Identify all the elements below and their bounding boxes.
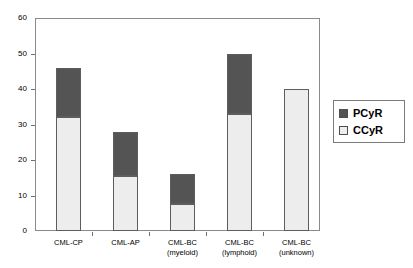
legend-label-pcyr: PCyR [353, 108, 382, 119]
y-tick-label-40: 40 [18, 85, 27, 93]
x-cat-label-line1: CML-BC [168, 238, 197, 247]
x-cat-label-cml-bc-unknown: CML-BC (unknown) [263, 238, 330, 258]
stacked-bar-chart: 60 50 40 30 20 10 0 [0, 0, 413, 268]
x-cat-label-line1: CML-BC [225, 238, 254, 247]
bar-segment-ccyr [227, 114, 252, 231]
bar-group-cml-bc-unknown [284, 89, 309, 231]
legend-item-ccyr: CCyR [339, 122, 399, 139]
chart-legend: PCyR CCyR [333, 100, 405, 143]
bar-segment-pcyr [56, 68, 81, 118]
y-axis: 60 50 40 30 20 10 0 [0, 0, 35, 268]
legend-swatch-icon [339, 109, 348, 118]
bar-segment-ccyr [56, 117, 81, 231]
x-tick-mark-4 [263, 232, 264, 236]
y-tick-label-20: 20 [18, 156, 27, 164]
legend-item-pcyr: PCyR [339, 105, 399, 122]
y-tick-label-10: 10 [18, 192, 27, 200]
bars-layer [35, 18, 320, 231]
x-cat-label-line1: CML-CP [54, 238, 83, 247]
bar-segment-pcyr [170, 174, 195, 204]
x-cat-label-line1: CML-AP [111, 238, 139, 247]
bar-group-cml-cp [56, 68, 81, 231]
bar-group-cml-bc-myeloid [170, 174, 195, 231]
y-tick-label-50: 50 [18, 50, 27, 58]
x-axis-labels: CML-CP CML-AP CML-BC (myeloid) CML-BC (l… [35, 238, 320, 268]
y-tick-label-60: 60 [18, 14, 27, 22]
bar-segment-pcyr [227, 54, 252, 114]
bar-group-cml-ap [113, 132, 138, 231]
x-tick-mark-3 [206, 232, 207, 236]
x-cat-label-line2: (unknown) [263, 248, 330, 258]
x-cat-label-line1: CML-BC [282, 238, 311, 247]
legend-swatch-icon [339, 126, 348, 135]
x-tick-mark-2 [149, 232, 150, 236]
bar-segment-ccyr [170, 204, 195, 231]
bar-segment-ccyr [113, 176, 138, 231]
bar-segment-pcyr [113, 132, 138, 176]
legend-label-ccyr: CCyR [353, 125, 383, 136]
bar-segment-ccyr [284, 89, 309, 231]
y-tick-label-0: 0 [23, 227, 27, 235]
y-tick-label-30: 30 [18, 121, 27, 129]
bar-group-cml-bc-lymphoid [227, 54, 252, 232]
x-tick-mark-1 [92, 232, 93, 236]
